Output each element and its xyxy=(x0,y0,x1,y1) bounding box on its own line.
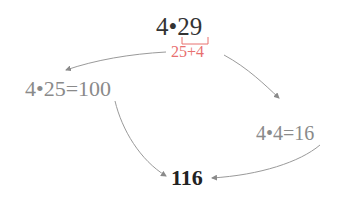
top-expression: 4•29 xyxy=(156,14,202,39)
right-product: 4•4=16 xyxy=(256,123,314,143)
arrow-right-to-result xyxy=(212,145,320,178)
arrow-to-left-product xyxy=(66,52,166,70)
left-product: 4•25=100 xyxy=(25,78,111,100)
arrow-left-to-result xyxy=(115,101,166,176)
arrow-to-right-product xyxy=(224,55,279,98)
distributive-multiplication-diagram: 4•29 25+4 4•25=100 4•4=16 116 xyxy=(0,0,351,199)
split-label: 25+4 xyxy=(171,44,204,60)
result: 116 xyxy=(171,167,203,189)
